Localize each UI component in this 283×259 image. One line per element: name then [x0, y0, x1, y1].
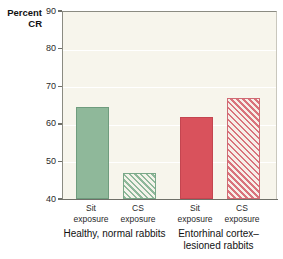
y-tick-label: 80: [30, 44, 56, 53]
x-category-label: CSexposure: [108, 203, 168, 224]
group-label-line2: lesioned rabbits: [159, 240, 279, 252]
group-label: Entorhinal cortex–lesioned rabbits: [159, 228, 279, 252]
y-tick-label: 70: [30, 82, 56, 91]
y-axis-title-line2: CR: [0, 18, 42, 29]
gridline: [63, 87, 276, 88]
y-tick-label: 40: [30, 195, 56, 204]
bar-chart: Percent CR 908070605040 SitexposureCSexp…: [0, 0, 283, 259]
bar: [227, 98, 260, 200]
y-tick-label: 50: [30, 157, 56, 166]
y-tick-label: 90: [30, 7, 56, 16]
bar: [180, 117, 213, 199]
x-category-line1: Sit: [190, 203, 200, 213]
x-category-line1: Sit: [86, 203, 96, 213]
bar: [76, 107, 109, 199]
x-category-line1: CS: [132, 203, 144, 213]
bar: [123, 173, 156, 199]
y-tick-mark: [58, 10, 62, 12]
y-tick-mark: [58, 161, 62, 163]
plot-area: [62, 11, 277, 199]
x-category-line2: exposure: [212, 214, 272, 225]
x-category-line2: exposure: [108, 214, 168, 225]
y-tick-mark: [58, 48, 62, 50]
x-category-line1: CS: [236, 203, 248, 213]
x-category-label: CSexposure: [212, 203, 272, 224]
y-tick-mark: [58, 86, 62, 88]
group-label: Healthy, normal rabbits: [55, 228, 175, 240]
y-tick-mark: [58, 123, 62, 125]
y-tick-label: 60: [30, 119, 56, 128]
y-tick-mark: [58, 198, 62, 200]
x-axis-line: [62, 199, 278, 201]
group-label-line1: Healthy, normal rabbits: [63, 228, 165, 239]
group-label-line1: Entorhinal cortex–: [178, 228, 259, 239]
gridline: [63, 50, 276, 51]
